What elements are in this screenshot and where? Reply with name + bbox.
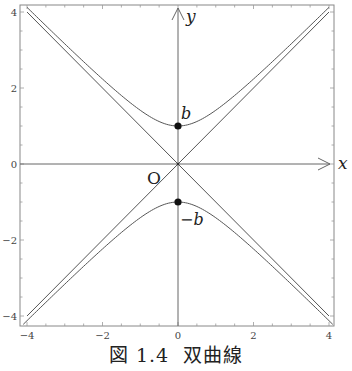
vertex-label-b: b [181,104,191,123]
origin-point [177,163,180,166]
y-tick-label: 0 [11,159,17,170]
figure-number: 図 1.4 [109,344,169,366]
hyperbola-plot: −4 −2 0 2 4 4 2 0 −2 −4 y x O b −b [0,0,352,340]
vertex-label-minus-b: −b [180,210,204,229]
x-tick-label: −4 [20,330,35,340]
y-axis-label: y [185,6,196,26]
x-tick-label: 4 [326,330,332,340]
x-tick-label: −2 [95,330,110,340]
figure-caption: 図 1.4双曲線 [0,340,352,367]
figure-title: 双曲線 [183,344,243,366]
x-tick-label: 0 [175,330,181,340]
x-axis-label: x [338,153,348,173]
y-tick-label: 2 [11,83,17,94]
y-tick-label: −2 [2,235,17,246]
y-tick-label: 4 [11,7,17,18]
y-tick-labels: 4 2 0 −2 −4 [2,7,17,322]
origin-label: O [147,168,161,188]
y-tick-label: −4 [2,311,17,322]
vertex-point-minus-b [174,198,181,205]
x-tick-label: 2 [250,330,256,340]
x-tick-labels: −4 −2 0 2 4 [20,330,333,340]
vertex-point-b [174,122,181,129]
